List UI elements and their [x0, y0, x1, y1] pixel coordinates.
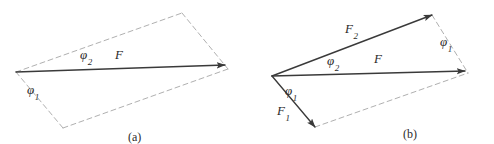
- label-angle-phi2-panel-a-1: φ2: [80, 48, 92, 65]
- label-angle-phi1-panel-b-2-subscript: 1: [448, 44, 453, 54]
- label-angle-phi1-panel-b-0-subscript: 1: [293, 93, 298, 103]
- label-vector-F1-panel-b-subscript: 1: [285, 113, 290, 123]
- label-vector-F-panel-b: F: [374, 52, 382, 65]
- vector-diagram-figure: Fφ1φ2(a)F1F2Fφ1φ2φ1(b): [0, 0, 494, 144]
- label-vector-F2-panel-b: F2: [345, 22, 357, 39]
- panel-b-dashed-edge-1: [315, 73, 468, 127]
- dashed-parallelogram-layer: [16, 13, 468, 128]
- label-angle-phi2-panel-a-1-subscript: 2: [88, 57, 93, 67]
- label-vector-F-panel-a: F: [115, 48, 123, 61]
- panel-caption-b: (b): [403, 128, 417, 140]
- panel-a-dashed-edge-1: [182, 13, 228, 69]
- label-angle-phi2-panel-b-1-subscript: 2: [335, 63, 340, 73]
- panel-b-vector-F: [272, 71, 465, 76]
- solid-vector-layer: [16, 15, 465, 127]
- label-vector-F1-panel-b: F1: [277, 104, 289, 121]
- panel-a-vector-F: [16, 65, 225, 72]
- panel-a-dashed-edge-0: [16, 13, 182, 72]
- diagram-canvas: [0, 0, 494, 144]
- label-angle-phi1-panel-b-0: φ1: [285, 84, 297, 101]
- label-vector-F2-panel-b-subscript: 2: [353, 31, 358, 41]
- panel-a-dashed-edge-3: [63, 69, 228, 128]
- label-angle-phi2-panel-b-1: φ2: [327, 54, 339, 71]
- label-angle-phi1-panel-b-2: φ1: [440, 35, 452, 52]
- label-angle-phi1-panel-a-0: φ1: [27, 83, 39, 100]
- panel-a-dashed-edge-2: [16, 72, 63, 128]
- label-angle-phi1-panel-a-0-subscript: 1: [35, 92, 40, 102]
- panel-caption-a: (a): [128, 131, 141, 143]
